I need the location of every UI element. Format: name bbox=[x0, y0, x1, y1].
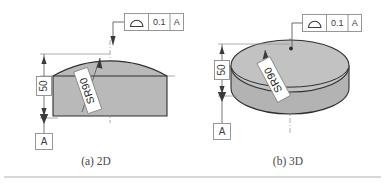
dim-value-3d: 50 bbox=[216, 64, 227, 76]
caption-2d: (a) 2D bbox=[81, 155, 111, 168]
fcf-datum-3d: A bbox=[352, 18, 358, 28]
panel-2d: 50 A SR90 0.1 A bbox=[36, 14, 184, 168]
datum-arrow-3d bbox=[218, 92, 226, 102]
datum-arrow-2d bbox=[40, 114, 48, 124]
fcf-tolerance-2d: 0.1 bbox=[153, 17, 166, 27]
panel-3d: 50 A SR90 0.1 A bbox=[214, 15, 362, 168]
feature-control-frame-2d: 0.1 A bbox=[125, 14, 184, 31]
feature-control-frame-3d: 0.1 A bbox=[303, 15, 362, 32]
dim-value-2d: 50 bbox=[38, 80, 49, 92]
figure-container: 50 A SR90 0.1 A bbox=[0, 0, 385, 184]
dim-arrow-top-3d bbox=[219, 46, 224, 54]
technical-drawing-figure: 50 A SR90 0.1 A bbox=[0, 0, 385, 184]
caption-3d: (b) 3D bbox=[273, 155, 303, 168]
datum-label-3d: A bbox=[219, 126, 226, 137]
datum-label-2d: A bbox=[41, 136, 48, 147]
apex-point-3d bbox=[289, 47, 293, 51]
fcf-tolerance-3d: 0.1 bbox=[331, 18, 344, 28]
fcf-arrow-2d bbox=[110, 36, 115, 46]
fcf-datum-2d: A bbox=[174, 17, 180, 27]
part-profile-2d bbox=[53, 61, 167, 116]
dim-arrow-top-2d bbox=[41, 56, 46, 64]
